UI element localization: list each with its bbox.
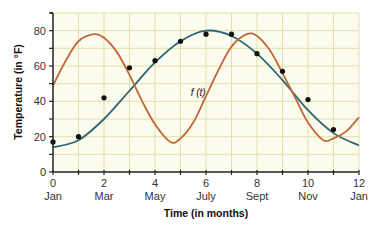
y-tick-label: 80 — [34, 25, 46, 37]
f-t-label: f (t) — [191, 87, 206, 98]
y-tick-label: 0 — [40, 166, 46, 178]
x-tick-label: 8 — [254, 177, 260, 189]
data-point — [76, 134, 81, 139]
x-month-label: May — [145, 190, 166, 202]
x-axis-title: Time (in months) — [164, 207, 248, 219]
x-month-label: Mar — [95, 190, 114, 202]
x-tick-label: 4 — [152, 177, 158, 189]
temperature-chart: 0Jan2Mar4May6July8Sept10Nov12Jan 0204060… — [0, 0, 379, 233]
grid — [53, 13, 359, 172]
x-month-label: July — [196, 190, 216, 202]
x-tick-label: 10 — [302, 177, 314, 189]
data-point — [229, 32, 234, 37]
data-point — [203, 32, 208, 37]
data-point — [178, 39, 183, 44]
y-tick-labels: 020406080 — [34, 25, 46, 178]
x-tick-label: 2 — [101, 177, 107, 189]
data-point — [152, 58, 157, 63]
x-month-label: Jan — [350, 190, 368, 202]
data-point — [331, 127, 336, 132]
y-tick-label: 60 — [34, 60, 46, 72]
y-axis-title: Temperature (in °F) — [12, 44, 24, 140]
x-month-label: Nov — [298, 190, 318, 202]
data-point — [280, 69, 285, 74]
data-point — [305, 97, 310, 102]
x-tick-label: 12 — [353, 177, 365, 189]
data-point — [101, 95, 106, 100]
data-point — [254, 51, 259, 56]
x-tick-labels: 0Jan2Mar4May6July8Sept10Nov12Jan — [44, 177, 368, 202]
annotations: f (t) — [191, 87, 206, 98]
y-tick-label: 20 — [34, 131, 46, 143]
x-month-label: Jan — [44, 190, 62, 202]
x-tick-label: 0 — [50, 177, 56, 189]
y-tick-label: 40 — [34, 95, 46, 107]
x-month-label: Sept — [246, 190, 269, 202]
x-tick-label: 6 — [203, 177, 209, 189]
data-point — [127, 65, 132, 70]
